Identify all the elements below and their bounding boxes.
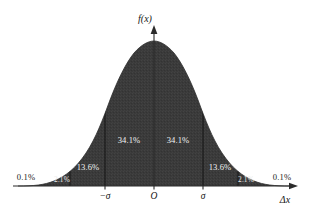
tick-label-minus-sigma: −σ [99,191,110,201]
y-axis-label: f(x) [138,13,153,25]
x-axis-label: Δx [279,194,291,205]
region-label-2-1-right: 2.1% [238,175,254,184]
normal-distribution-figure: f(x) Δx −σ O σ 34.1% 34.1% 13.6% 13.6% 2… [0,0,309,212]
region-label-13-6-right: 13.6% [209,162,232,172]
region-label-2-1-left: 2.1% [54,175,70,184]
tick-label-origin: O [151,191,158,201]
region-label-13-6-left: 13.6% [77,162,100,172]
distribution-chart: f(x) Δx −σ O σ 34.1% 34.1% 13.6% 13.6% 2… [0,0,309,212]
tick-label-sigma: σ [201,191,206,201]
region-label-34-1-right: 34.1% [167,135,190,145]
region-label-0-1-right: 0.1% [273,172,291,182]
region-label-34-1-left: 34.1% [118,135,141,145]
region-label-0-1-left: 0.1% [17,172,35,182]
